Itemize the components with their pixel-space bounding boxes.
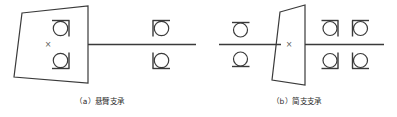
- bearing-b-right-inner-lower: [322, 53, 339, 69]
- diagram-a-group: ×: [14, 6, 196, 83]
- caption-diagram-b: （b）简支支承: [197, 98, 397, 106]
- bearing-roller-circle: [234, 52, 248, 66]
- bearing-roller-circle: [323, 54, 337, 68]
- bearing-roller-circle: [154, 21, 168, 35]
- bearing-b-right-inner-upper: [322, 21, 339, 37]
- gear-cross-mark-a: ×: [45, 40, 52, 49]
- gear-cross-mark-b: ×: [286, 40, 293, 49]
- bearing-roller-circle: [354, 22, 368, 36]
- bearing-a-lower-outer: [153, 53, 171, 69]
- bearing-roller-circle: [354, 54, 368, 68]
- bearing-b-right-outer-upper: [352, 21, 369, 37]
- caption-diagram-a: （a）悬臂支承: [0, 98, 200, 106]
- bearing-roller-circle: [53, 21, 67, 35]
- bearing-roller-circle: [323, 22, 337, 36]
- bearing-a-upper-outer: [153, 21, 171, 37]
- bearing-b-left-lower: [232, 52, 250, 67]
- bearing-a-upper-inner: [52, 21, 70, 37]
- figure-container: ×: [0, 0, 397, 117]
- diagram-b-group: ×: [219, 5, 384, 85]
- bearing-a-lower-inner: [52, 53, 70, 69]
- bearing-b-left-upper: [232, 23, 250, 38]
- bearing-b-right-outer-lower: [352, 53, 369, 69]
- bearing-roller-circle: [154, 53, 168, 67]
- bearing-roller-circle: [234, 23, 248, 37]
- bearing-roller-circle: [53, 53, 67, 67]
